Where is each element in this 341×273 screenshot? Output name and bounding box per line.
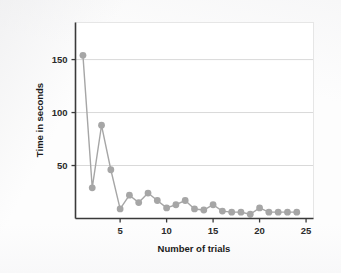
- x-tick-label: 20: [254, 225, 265, 236]
- data-point: [228, 209, 235, 216]
- data-point: [98, 122, 105, 129]
- data-point: [182, 197, 189, 204]
- line-chart: 50100150 510152025 Number of trials Time…: [0, 0, 341, 273]
- y-axis-tick-labels: 50100150: [52, 54, 68, 171]
- data-point: [256, 205, 263, 212]
- data-point: [163, 205, 170, 212]
- data-point: [89, 184, 96, 191]
- data-point: [219, 208, 226, 215]
- plot-area-background: [76, 23, 314, 219]
- x-tick-label: 15: [208, 225, 219, 236]
- x-tick-label: 25: [301, 225, 312, 236]
- data-point: [200, 207, 207, 214]
- x-axis-title: Number of trials: [158, 243, 231, 254]
- y-tick-label: 150: [52, 54, 68, 65]
- data-point: [173, 201, 180, 208]
- data-point: [191, 206, 198, 213]
- y-axis-title: Time in seconds: [34, 83, 45, 157]
- x-tick-label: 5: [117, 225, 123, 236]
- data-point: [135, 199, 142, 206]
- data-point: [265, 209, 272, 216]
- x-tick-label: 10: [161, 225, 172, 236]
- y-tick-label: 100: [52, 107, 68, 118]
- data-point: [145, 190, 152, 197]
- data-point: [275, 209, 282, 216]
- data-point: [126, 192, 133, 199]
- figure-container: 50100150 510152025 Number of trials Time…: [0, 0, 341, 273]
- y-tick-label: 50: [57, 160, 68, 171]
- data-point: [107, 166, 114, 173]
- data-point: [154, 197, 161, 204]
- data-point: [238, 209, 245, 216]
- data-point: [210, 201, 217, 208]
- data-point: [117, 206, 124, 213]
- data-point: [247, 211, 254, 218]
- data-point: [284, 209, 291, 216]
- data-point: [293, 209, 300, 216]
- data-point: [80, 52, 87, 59]
- x-axis-tick-labels: 510152025: [117, 225, 312, 236]
